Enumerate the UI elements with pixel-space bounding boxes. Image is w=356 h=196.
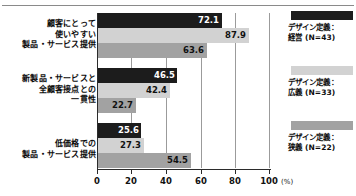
bar-value-label: 25.6 [118, 123, 139, 138]
chart-figure: 顧客にとって 使いやすい 製品・サービス提供 新製品・サービスと 全顧客接点との… [0, 0, 356, 196]
category-label-1: 新製品・サービスと 全顧客接点との 一貫性 [0, 74, 96, 106]
bar-value-label: 63.6 [183, 43, 204, 58]
gridline-100 [269, 13, 270, 168]
bar-value-label: 27.3 [120, 138, 141, 153]
bar-value-label: 72.1 [198, 13, 219, 28]
x-axis-unit-label: (%) [281, 178, 293, 186]
legend-label: デザイン定義： 広義 (N=33) [288, 78, 356, 98]
tickmark-0 [97, 170, 98, 174]
xtick-label-80: 80 [220, 176, 250, 186]
bar-value-label: 46.5 [154, 68, 175, 83]
tickmark-40 [166, 170, 167, 174]
x-axis-line [97, 169, 271, 170]
tickmark-100 [269, 170, 270, 174]
xtick-label-0: 0 [82, 176, 112, 186]
xtick-label-40: 40 [151, 176, 181, 186]
xtick-label-20: 20 [116, 176, 146, 186]
y-axis-line [97, 13, 98, 170]
tickmark-20 [131, 170, 132, 174]
plot-area: 72.1 87.9 63.6 46.5 42.4 22.7 [97, 13, 270, 168]
legend-swatch-icon [291, 11, 353, 20]
xtick-label-60: 60 [186, 176, 216, 186]
tickmark-80 [235, 170, 236, 174]
tickmark-60 [201, 170, 202, 174]
xtick-label-100: 100 [254, 176, 284, 186]
legend-label: デザイン定義： 経営 (N=43) [288, 23, 356, 43]
bar-value-label: 87.9 [225, 28, 246, 43]
legend-swatch-icon [291, 66, 353, 75]
legend-swatch-icon [291, 121, 353, 130]
category-label-0: 顧客にとって 使いやすい 製品・サービス提供 [0, 19, 96, 51]
bar-value-label: 54.5 [167, 153, 188, 168]
category-axis-labels: 顧客にとって 使いやすい 製品・サービス提供 新製品・サービスと 全顧客接点との… [0, 0, 96, 196]
category-label-2: 低価格での 製品・サービス提供 [0, 139, 96, 160]
legend-label: デザイン定義： 狭義 (N=22) [288, 133, 356, 153]
bar-value-label: 42.4 [146, 83, 167, 98]
bar-value-label: 22.7 [112, 98, 133, 113]
